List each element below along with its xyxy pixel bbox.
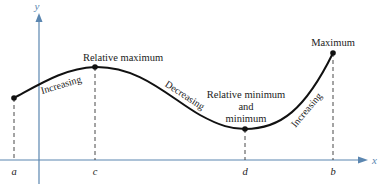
function-extrema-diagram: Relative maximum Relative minimum and mi… (0, 0, 378, 184)
tick-label-d: d (242, 166, 248, 177)
relative-min-label-line1: Relative minimum (207, 89, 285, 100)
tick-label-b: b (330, 166, 335, 177)
tick-label-c: c (93, 166, 98, 177)
point-a (11, 95, 17, 101)
relative-min-label-line2: and (238, 101, 254, 112)
y-axis-label: y (34, 0, 40, 12)
x-axis-label: x (371, 154, 377, 166)
tick-label-a: a (11, 166, 16, 177)
y-axis-arrow-icon (36, 13, 43, 22)
point-relative-min (242, 126, 248, 132)
point-relative-max (92, 64, 98, 70)
maximum-label: Maximum (311, 37, 355, 48)
relative-max-label: Relative maximum (83, 52, 163, 63)
segment-label-increasing-1: Increasing (39, 73, 82, 96)
point-maximum (330, 50, 336, 56)
relative-min-label-line3: minimum (226, 113, 267, 124)
x-axis-arrow-icon (358, 157, 368, 164)
